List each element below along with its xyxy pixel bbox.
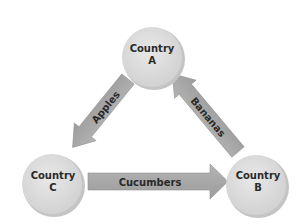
node-country-a: Country A [122, 27, 185, 90]
node-country-b: Country B [226, 155, 289, 218]
node-label-b-line1: Country [236, 170, 281, 181]
arrow-apples: Apples [62, 70, 139, 156]
edge-label-bananas: Bananas [188, 95, 227, 139]
arrow-cucumbers: Cucumbers [88, 164, 228, 199]
trade-diagram: Apples Bananas Cucumbers Country A Count… [0, 0, 304, 224]
node-country-c: Country C [22, 154, 85, 217]
node-label-c-line1: Country [31, 170, 76, 181]
edge-label-cucumbers: Cucumbers [119, 177, 182, 188]
node-label-a-line2: A [148, 55, 156, 66]
node-label-b-line2: B [254, 182, 262, 193]
node-label-c-line2: C [49, 182, 56, 193]
node-label-a-line1: Country [130, 43, 175, 54]
